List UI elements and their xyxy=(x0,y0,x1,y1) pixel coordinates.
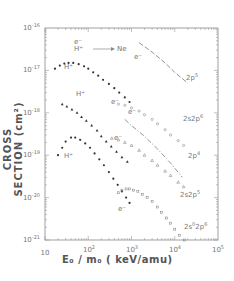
plot-frame xyxy=(45,28,218,240)
label-e-2s2p6: e⁻ xyxy=(111,98,119,106)
x-tick-label: 102 xyxy=(77,244,101,254)
label-h-2s2p6: H⁺ xyxy=(76,90,85,98)
arrow-head-icon xyxy=(111,47,115,51)
label-h-2s2p5: H⁺ xyxy=(64,152,73,160)
label-2s02p6: 2s02p6 xyxy=(184,221,207,231)
label-h-2p5: H⁺ xyxy=(64,63,73,71)
y-tick-label: 10-21 xyxy=(6,234,40,244)
label-e-2p5: e⁻ xyxy=(134,53,142,61)
label-e-2p4: e⁻ xyxy=(128,108,136,116)
label-2p5: 2p5 xyxy=(186,72,198,82)
legend-target: Ne xyxy=(117,45,127,53)
legend-proton: H⁺ xyxy=(74,45,83,53)
x-tick-label: 104 xyxy=(163,244,187,254)
x-tick-label: 103 xyxy=(120,244,144,254)
y-tick-label: 10-17 xyxy=(6,64,40,74)
label-e-2s02p6: e⁻ xyxy=(118,205,126,213)
label-2s2p6: 2s2p6 xyxy=(183,113,203,123)
x-axis-title: E₀ / m₀ ( keV/amu) xyxy=(62,254,173,265)
y-tick-label: 10-16 xyxy=(6,22,40,32)
series-e-2p4 xyxy=(125,119,183,177)
label-2p4: 2p4 xyxy=(188,150,200,160)
x-tick-label: 105 xyxy=(206,244,230,254)
x-tick-label: 10 xyxy=(33,247,57,257)
cross-section-chart: 10-16 10-17 10-18 10-19 10-20 10-21 10 1… xyxy=(0,0,234,281)
label-e-2s2p5: e⁻ xyxy=(114,134,122,142)
axis-ticks xyxy=(45,28,218,240)
label-2s2p5: 2s2p5 xyxy=(180,189,200,199)
y-axis-title: CROSS SECTION (cm²) xyxy=(2,99,24,199)
series-e-2p5 xyxy=(139,43,188,83)
series-e-2s2p5 xyxy=(110,137,185,188)
series-e-2s0-2p6 xyxy=(117,188,185,241)
